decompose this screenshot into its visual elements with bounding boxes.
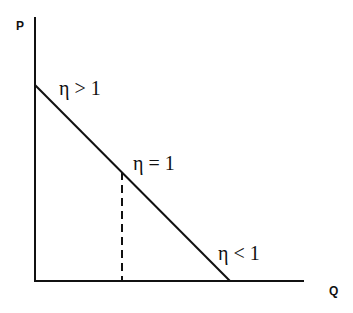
inelastic-label: η < 1 (218, 242, 260, 265)
unit-elastic-label: η = 1 (133, 152, 175, 175)
demand-diagram: P Q η > 1 η = 1 η < 1 (0, 0, 353, 313)
y-axis-label: P (16, 19, 24, 33)
elastic-label: η > 1 (59, 77, 101, 100)
demand-curve (35, 85, 230, 281)
x-axis-label: Q (329, 284, 338, 298)
